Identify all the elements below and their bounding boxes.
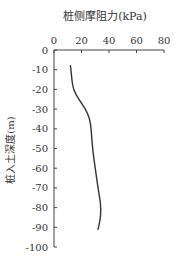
y-tick-label: -100 [26, 242, 48, 253]
friction-depth-chart: 桩侧摩阻力(kPa)0204060800-10-20-30-40-50-60-7… [0, 0, 177, 264]
y-tick-label: -10 [32, 64, 48, 75]
y-tick-label: -20 [32, 84, 48, 95]
x-tick-label: 60 [130, 35, 143, 46]
y-tick-label: -60 [32, 163, 48, 174]
y-tick-label: -70 [32, 182, 48, 193]
x-tick-label: 80 [158, 35, 171, 46]
chart-title: 桩侧摩阻力(kPa) [63, 9, 147, 23]
y-tick-label: -40 [32, 123, 48, 134]
y-tick-label: 0 [42, 45, 48, 56]
x-tick-label: 20 [75, 35, 88, 46]
friction-curve [71, 66, 101, 230]
y-tick-label: -30 [32, 104, 48, 115]
x-tick-label: 40 [103, 35, 116, 46]
y-tick-label: -90 [32, 222, 48, 233]
x-tick-label: 0 [51, 35, 57, 46]
y-tick-label: -80 [32, 202, 48, 213]
y-tick-label: -50 [32, 143, 48, 154]
y-axis-label: 桩入土深度(m) [4, 116, 16, 183]
